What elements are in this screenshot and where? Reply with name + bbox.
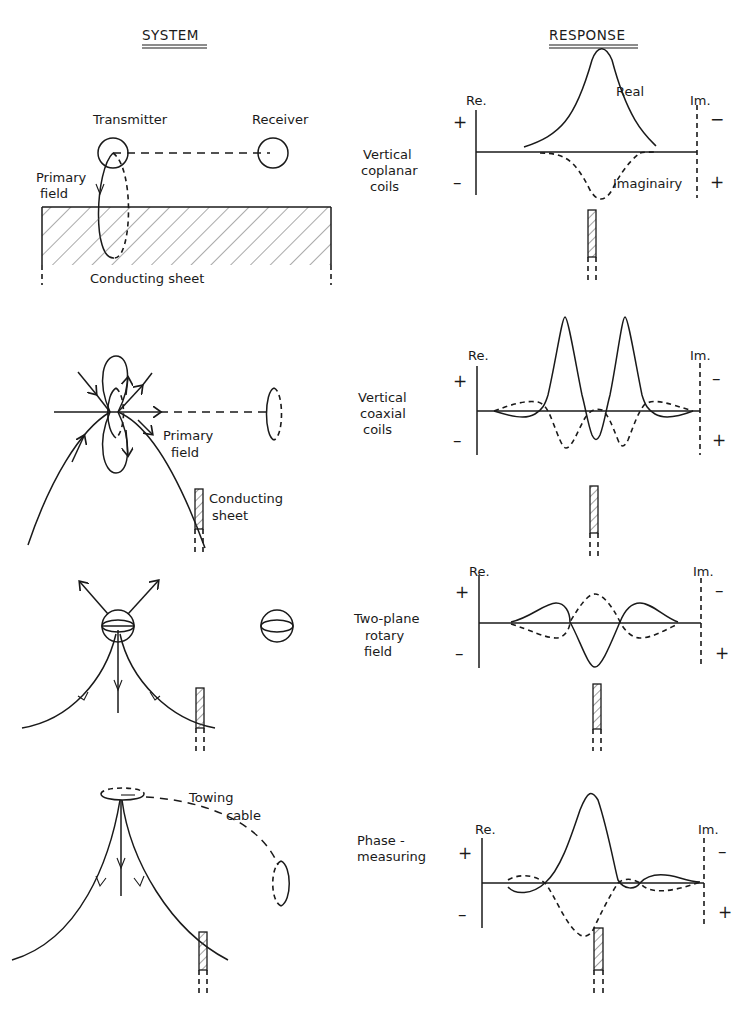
- primary-field-label: Primary: [163, 428, 214, 443]
- row-label-line: measuring: [357, 849, 426, 864]
- im-plus-sign: +: [710, 172, 724, 192]
- re-plus-sign: +: [455, 582, 469, 602]
- field-line-curved-right: [122, 800, 228, 960]
- response-vertical-coplanar: Vertical coplanar coils Re. Im. + – − + …: [361, 49, 724, 280]
- re-axis-label: Re.: [475, 822, 496, 837]
- system-vertical-coaxial: Primary field Conducting sheet: [28, 356, 283, 555]
- im-minus-sign: –: [718, 841, 727, 861]
- primary-field-label: Primary: [36, 170, 87, 185]
- conducting-sheet-label: Conducting sheet: [90, 271, 204, 286]
- row-label-line: coaxial: [360, 406, 406, 421]
- receiver-coil-solid: [281, 861, 289, 906]
- upper-lobe: [103, 356, 128, 412]
- receiver-coil-icon: [258, 138, 288, 168]
- conducting-sheet-marker: [588, 210, 596, 257]
- receiver-label: Receiver: [252, 112, 309, 127]
- row-label-line: field: [364, 644, 392, 659]
- receiver-coil-solid: [267, 388, 275, 440]
- imaginary-curve: [508, 876, 700, 936]
- transmitter-label: Transmitter: [92, 112, 168, 127]
- im-axis-label: Im.: [693, 564, 714, 579]
- im-minus-sign: –: [715, 580, 724, 600]
- re-plus-sign: +: [458, 843, 472, 863]
- conducting-sheet-marker: [196, 688, 204, 728]
- re-plus-sign: +: [453, 112, 467, 132]
- primary-field-label-2: field: [171, 445, 199, 460]
- conducting-sheet-label-2: sheet: [212, 508, 248, 523]
- field-line-out-left: [80, 582, 108, 614]
- row-label-line: Vertical: [363, 147, 412, 162]
- im-plus-sign: +: [718, 902, 732, 922]
- field-arrow-up: [126, 378, 128, 395]
- response-header-text: RESPONSE: [549, 27, 625, 43]
- conducting-sheet-marker: [593, 684, 601, 729]
- conducting-sheet-hatch: [42, 207, 331, 265]
- field-line-curved-left: [12, 800, 120, 960]
- response-header: RESPONSE: [549, 27, 638, 48]
- row-label-line: coplanar: [361, 163, 418, 178]
- system-two-plane-rotary: [22, 581, 293, 752]
- response-vertical-coaxial: Vertical coaxial coils Re. Im. + – – +: [358, 317, 726, 556]
- receiver-coil-icon: [261, 610, 293, 642]
- field-line-curved-left: [28, 412, 110, 545]
- row-label-line: coils: [363, 422, 392, 437]
- transmitter-coil-dashed: [101, 788, 144, 794]
- real-curve-label: Real: [616, 84, 644, 99]
- re-plus-sign: +: [453, 371, 467, 391]
- system-header: SYSTEM: [142, 27, 207, 48]
- primary-field-label-2: field: [40, 186, 68, 201]
- system-vertical-coplanar: Transmitter Receiver Primary field Condu…: [36, 112, 331, 287]
- system-header-text: SYSTEM: [142, 27, 199, 43]
- im-axis-label: Im.: [690, 93, 711, 108]
- re-minus-sign: –: [458, 904, 467, 924]
- field-line-out-right: [128, 581, 158, 614]
- real-curve: [494, 317, 693, 440]
- row-label-line: Vertical: [358, 390, 407, 405]
- row-label-line: Phase -: [357, 833, 405, 848]
- lower-lobe: [103, 412, 128, 473]
- re-minus-sign: –: [453, 430, 462, 450]
- towing-cable-label: Towing: [188, 790, 233, 805]
- row-label-line: coils: [370, 179, 399, 194]
- conducting-sheet-marker: [199, 932, 207, 970]
- field-arrow-down: [126, 430, 128, 455]
- conducting-sheet-marker: [594, 928, 603, 970]
- re-axis-label: Re.: [466, 93, 487, 108]
- response-two-plane-rotary: Two-plane rotary field Re. Im. + – – +: [353, 564, 729, 751]
- receiver-coil-dashed: [273, 861, 281, 906]
- diagram-canvas: SYSTEM RESPONSE Transmitter Receiver Pri…: [0, 0, 752, 1020]
- im-minus-sign: −: [710, 109, 724, 129]
- imaginary-curve: [511, 594, 678, 638]
- re-minus-sign: –: [455, 643, 464, 663]
- im-minus-sign: –: [712, 368, 721, 388]
- real-curve: [511, 603, 678, 667]
- im-plus-sign: +: [712, 430, 726, 450]
- im-axis-label: Im.: [690, 348, 711, 363]
- receiver-coil-dashed: [274, 388, 282, 440]
- row-label-line: rotary: [365, 628, 404, 643]
- field-line-curved-left: [22, 634, 116, 728]
- re-axis-label: Re.: [468, 348, 489, 363]
- response-phase-measuring: Phase - measuring Re. Im. + – – +: [357, 793, 732, 996]
- conducting-sheet-marker: [590, 486, 598, 533]
- system-phase-measuring: Towing cable: [12, 788, 289, 994]
- row-label-line: Two-plane: [353, 611, 419, 626]
- re-minus-sign: –: [453, 172, 462, 192]
- conducting-sheet-label: Conducting: [209, 491, 283, 506]
- field-line-in-left: [78, 372, 96, 394]
- im-axis-label: Im.: [698, 822, 719, 837]
- imaginary-curve-label: Imaginairy: [613, 176, 682, 191]
- conducting-sheet-marker: [195, 489, 203, 529]
- im-plus-sign: +: [715, 643, 729, 663]
- imaginary-curve: [494, 402, 693, 448]
- towing-cable-label-2: cable: [226, 808, 261, 823]
